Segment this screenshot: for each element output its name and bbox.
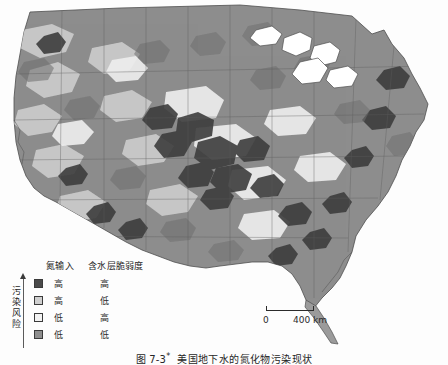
- legend-cell-nitrogen: 低: [54, 327, 63, 343]
- legend-row: 高 高: [34, 276, 191, 293]
- legend-rows: 高 高 高 低 低 高 低 低: [34, 276, 191, 344]
- legend-swatch-icon: [34, 330, 43, 339]
- map-legend: 污染风险 氮输入 含水层脆弱度 高 高 高 低 低 高: [6, 258, 191, 354]
- legend-header-aquifer-vulnerability: 含水层脆弱度: [88, 260, 144, 272]
- figure-caption: 图 7-3*美国地下水的氮化物污染现状: [0, 350, 448, 365]
- legend-swatch-icon: [34, 313, 43, 322]
- legend-row: 高 低: [34, 293, 191, 310]
- legend-cell-aquifer: 低: [100, 327, 109, 343]
- risk-axis-label: 污染风险: [11, 286, 22, 330]
- legend-cell-aquifer: 低: [100, 293, 109, 309]
- legend-swatch-icon: [34, 296, 43, 305]
- risk-arrow-icon: [23, 278, 24, 348]
- legend-cell-nitrogen: 高: [54, 276, 63, 292]
- caption-title: 美国地下水的氮化物污染现状: [177, 354, 312, 365]
- scalebar-label-zero: 0: [263, 315, 269, 326]
- legend-row: 低 低: [34, 327, 191, 344]
- caption-number: 图 7-3: [136, 354, 167, 365]
- legend-headers: 氮输入 含水层脆弱度: [46, 260, 191, 274]
- scalebar-line: [266, 310, 314, 311]
- map-scalebar: 0 400 km: [262, 310, 362, 336]
- scalebar-tick-left: [266, 306, 267, 311]
- scalebar-tick-right: [313, 306, 314, 311]
- legend-cell-nitrogen: 高: [54, 293, 63, 309]
- legend-header-nitrogen-input: 氮输入: [46, 260, 74, 272]
- legend-cell-nitrogen: 低: [54, 310, 63, 326]
- figure-container: 污染风险 氮输入 含水层脆弱度 高 高 高 低 低 高: [0, 0, 448, 365]
- pollution-risk-axis: 污染风险: [14, 278, 32, 348]
- legend-row: 低 高: [34, 310, 191, 327]
- legend-cell-aquifer: 高: [100, 276, 109, 292]
- scalebar-label-max: 400 km: [293, 315, 327, 326]
- legend-cell-aquifer: 高: [100, 310, 109, 326]
- legend-swatch-icon: [34, 279, 43, 288]
- caption-star: *: [166, 352, 170, 361]
